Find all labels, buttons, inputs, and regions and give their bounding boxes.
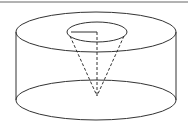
cylinder-bottom-front-arc <box>16 100 176 120</box>
cone-right-slant <box>97 36 124 96</box>
cylinder-bottom-back-arc <box>16 80 176 100</box>
diagram-canvas <box>0 0 188 129</box>
cylinder-cone-figure <box>0 0 188 129</box>
cone-left-slant <box>70 36 97 96</box>
